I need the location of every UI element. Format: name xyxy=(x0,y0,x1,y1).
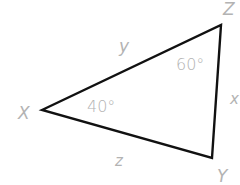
angle-label-z: 60° xyxy=(176,55,204,74)
vertex-label-y: Y xyxy=(217,166,229,185)
triangle-xyz xyxy=(42,25,221,158)
side-label-y: y xyxy=(118,36,130,56)
vertex-label-z: Z xyxy=(222,0,235,19)
angle-label-x: 40° xyxy=(87,97,115,116)
side-label-z: z xyxy=(114,152,124,170)
vertex-label-x: X xyxy=(17,103,30,123)
side-label-x: x xyxy=(229,90,239,108)
triangle-diagram: Z Y X y x z 40° 60° xyxy=(0,0,240,185)
